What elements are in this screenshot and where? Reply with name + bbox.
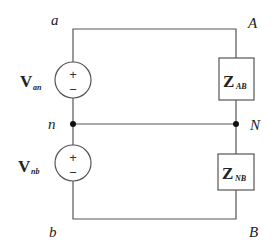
ZAB-subscript: AB: [235, 82, 247, 91]
node-label-N: N: [249, 117, 261, 133]
plus-sign: +: [69, 67, 77, 82]
ZNB-symbol: Z: [222, 164, 233, 183]
wires: [73, 29, 236, 219]
node-label-b: b: [49, 224, 57, 240]
ZNB-subscript: NB: [234, 174, 247, 183]
minus-sign: −: [69, 165, 77, 180]
Van-subscript: an: [33, 83, 42, 92]
source-Van: + −: [55, 62, 91, 98]
Van-symbol: V: [20, 72, 33, 91]
ZAB-symbol: Z: [223, 72, 234, 91]
load-ZNB: Z NB: [218, 154, 254, 190]
source-Vnb: + −: [55, 145, 91, 181]
Vnb-subscript: nb: [31, 167, 39, 176]
Vnb-symbol: V: [18, 157, 31, 176]
load-ZAB: Z AB: [219, 58, 254, 100]
circuit-diagram: + − V an + − V nb Z AB Z NB a A n N b B: [0, 0, 275, 250]
minus-sign: −: [69, 82, 77, 97]
plus-sign: +: [69, 150, 77, 165]
node-label-a: a: [51, 12, 59, 28]
node-N-dot: [233, 121, 239, 127]
top-wire: [73, 29, 236, 62]
node-label-B: B: [249, 224, 258, 240]
node-label-A: A: [247, 15, 258, 31]
bottom-wire: [73, 181, 236, 219]
node-label-n: n: [48, 116, 56, 132]
node-n-dot: [70, 121, 76, 127]
